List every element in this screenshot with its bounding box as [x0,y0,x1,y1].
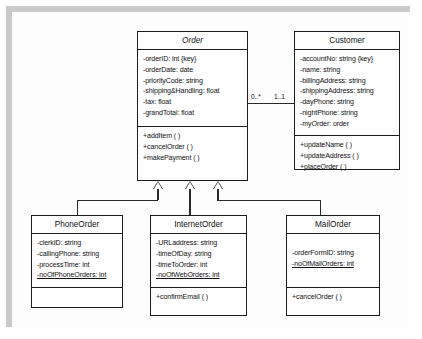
generalization-edge-phoneorder-stem [157,189,158,200]
multiplicity-order-side: 0..* [251,93,261,100]
class-operations-mailorder: +cancelOrder ( ) [287,288,379,307]
attribute-static: -noOfMailOrders: int [292,259,374,270]
operation: +makePayment ( ) [143,153,242,164]
operation: +confirmEmail ( ) [156,292,241,303]
class-title-customer: Customer [295,32,399,50]
association-line-order-customer [248,103,294,104]
attribute: -accountNo: string {key} [300,54,394,65]
multiplicity-customer-side: 1..1 [274,93,285,100]
generalization-edge-mailorder-stem [217,189,218,200]
attribute: -orderDate: date [143,65,242,76]
attribute: -priorityCode: string [143,76,242,87]
class-attributes-mailorder: -orderFormID: string -noOfMailOrders: in… [287,234,379,288]
attribute: -callingPhone: string [37,249,117,260]
class-attributes-order: -orderID: int {key} -orderDate: date -pr… [138,50,247,127]
class-operations-phoneorder [32,288,122,296]
class-box-phoneorder[interactable]: PhoneOrder -clerkID: string -callingPhon… [31,215,123,308]
attribute: -name: string [300,65,394,76]
attribute: -timeToOrder: int [156,260,241,271]
generalization-edge-phoneorder-drop [77,200,78,216]
attribute: -processTime: int [37,260,117,271]
generalization-edge-internetorder-stem [189,189,190,215]
generalization-triangle-phoneorder-fill [154,182,162,189]
attribute: -nightPhone: string [300,108,394,119]
attribute: -dayPhone: string [300,97,394,108]
class-attributes-internetorder: -URLaddress: string -timeOfDay: string -… [151,234,246,288]
operation: +updateName ( ) [300,140,394,151]
attribute-static: -noOfWebOrders: int [156,270,241,281]
attribute-static: -noOfPhoneOrders: int [37,270,117,281]
attribute: -shippingAddress: string [300,86,394,97]
attribute: -tax: float [143,97,242,108]
attribute: -grandTotal: float [143,108,242,119]
class-title-order: Order [138,32,247,50]
operation: +updateAddress ( ) [300,151,394,162]
generalization-triangle-internetorder-fill [186,182,194,189]
generalization-edge-phoneorder-elbow [77,200,158,201]
class-attributes-customer: -accountNo: string {key} -name: string -… [295,50,399,136]
attribute: -orderFormID: string [292,248,374,259]
operation: +cancelOrder ( ) [143,142,242,153]
class-title-mailorder: MailOrder [287,216,379,234]
attribute: -shipping&Handling: float [143,86,242,97]
class-box-customer[interactable]: Customer -accountNo: string {key} -name:… [294,31,400,170]
attribute: -URLaddress: string [156,238,241,249]
class-title-phoneorder: PhoneOrder [32,216,122,234]
class-box-internetorder[interactable]: InternetOrder -URLaddress: string -timeO… [150,215,247,316]
class-operations-customer: +updateName ( ) +updateAddress ( ) +plac… [295,136,399,176]
operation: +addItem ( ) [143,131,242,142]
attribute: -billingAddress: string [300,76,394,87]
class-attributes-phoneorder: -clerkID: string -callingPhone: string -… [32,234,122,288]
generalization-edge-mailorder-elbow [217,200,320,201]
attribute: -timeOfDay: string [156,249,241,260]
class-box-order[interactable]: Order -orderID: int {key} -orderDate: da… [137,31,248,181]
class-title-internetorder: InternetOrder [151,216,246,234]
class-operations-order: +addItem ( ) +cancelOrder ( ) +makePayme… [138,127,247,167]
generalization-edge-mailorder-drop [320,200,321,216]
class-box-mailorder[interactable]: MailOrder -orderFormID: string -noOfMail… [286,215,380,316]
class-operations-internetorder: +confirmEmail ( ) [151,288,246,307]
attribute: -orderID: int {key} [143,54,242,65]
generalization-triangle-mailorder-fill [214,182,222,189]
uml-class-diagram: 0..* 1..1 Order -orderID: int {key} -ord… [0,0,422,339]
operation: +placeOrder ( ) [300,162,394,173]
attribute: -myOrder: order [300,119,394,130]
attribute: -clerkID: string [37,238,117,249]
operation: +cancelOrder ( ) [292,292,374,303]
